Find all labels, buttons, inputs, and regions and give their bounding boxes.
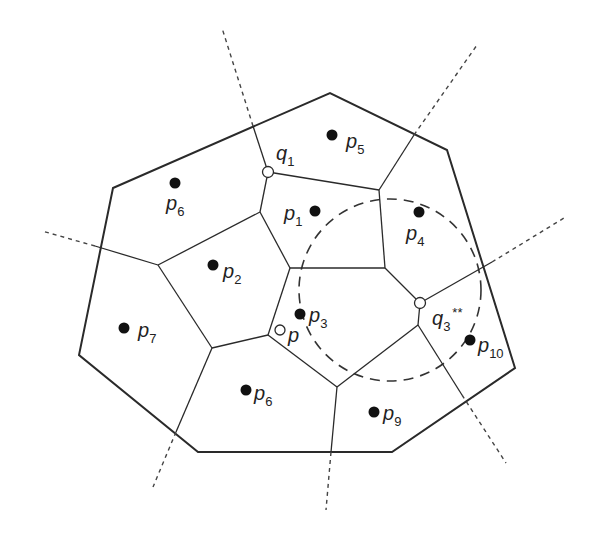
voronoi-edge bbox=[268, 335, 337, 387]
dashed-ray bbox=[326, 452, 331, 510]
vertex-marker-q1 bbox=[263, 167, 274, 178]
dashed-ray bbox=[414, 45, 477, 135]
site-dot-p6b bbox=[241, 385, 252, 396]
voronoi-edge bbox=[379, 190, 385, 268]
voronoi-edge bbox=[212, 335, 268, 348]
site-label-p1: p1 bbox=[283, 202, 302, 229]
voronoi-edge bbox=[158, 265, 212, 348]
voronoi-edge bbox=[158, 212, 260, 265]
site-label-p2: p2 bbox=[222, 260, 241, 287]
voronoi-edge bbox=[253, 126, 268, 172]
site-dot-p1 bbox=[310, 206, 321, 217]
site-dot-p4 bbox=[414, 207, 425, 218]
marked-vertices: q1q3** bbox=[263, 142, 463, 334]
voronoi-edge bbox=[176, 348, 212, 432]
site-label-p9: p9 bbox=[382, 402, 401, 429]
dashed-ray bbox=[462, 395, 506, 463]
voronoi-edge bbox=[331, 387, 337, 452]
vertex-label-q1: q1 bbox=[276, 142, 294, 169]
unbounded-edge-rays bbox=[42, 28, 564, 510]
voronoi-edge bbox=[268, 172, 379, 190]
dashed-ray bbox=[492, 218, 564, 262]
dashed-ray bbox=[153, 432, 176, 487]
empty-circle bbox=[299, 199, 481, 381]
site-dot-p2 bbox=[208, 260, 219, 271]
bounding-polygon bbox=[79, 93, 515, 452]
site-dot-p10 bbox=[465, 335, 476, 346]
query-point-label: p bbox=[287, 324, 299, 346]
site-label-p6b: p6 bbox=[253, 382, 272, 409]
voronoi-edge bbox=[379, 135, 414, 190]
site-label-p6a: p6 bbox=[165, 192, 184, 219]
voronoi-edge bbox=[418, 325, 462, 395]
site-dot-p3 bbox=[295, 309, 306, 320]
site-label-p4: p4 bbox=[405, 222, 424, 249]
hull-outline bbox=[79, 93, 515, 452]
site-dot-p5 bbox=[327, 130, 338, 141]
dashed-ray bbox=[222, 28, 253, 126]
query-point-marker bbox=[275, 325, 285, 335]
site-label-p5: p5 bbox=[345, 130, 364, 157]
dashed-circle bbox=[299, 199, 481, 381]
voronoi-diagram: q1q3** p5p6p1p4p2p3p7p10p6p9 p bbox=[0, 0, 594, 534]
site-label-p3: p3 bbox=[308, 304, 327, 331]
dashed-ray bbox=[42, 231, 95, 246]
site-label-p10: p10 bbox=[477, 334, 504, 361]
vertex-label-q3: q3** bbox=[432, 305, 462, 334]
voronoi-edge bbox=[337, 325, 418, 387]
site-dot-p9 bbox=[369, 407, 380, 418]
vertex-marker-q3 bbox=[415, 298, 426, 309]
site-label-p7: p7 bbox=[137, 319, 156, 346]
site-dot-p6a bbox=[170, 178, 181, 189]
voronoi-edge bbox=[385, 268, 420, 303]
site-dot-p7 bbox=[119, 323, 130, 334]
voronoi-edges bbox=[95, 126, 492, 452]
voronoi-edge bbox=[95, 246, 158, 265]
voronoi-sites: p5p6p1p4p2p3p7p10p6p9 bbox=[119, 130, 504, 430]
